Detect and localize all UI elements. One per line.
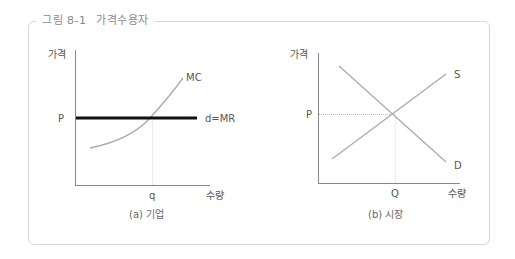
panel-a-mc-curve <box>90 78 183 148</box>
panel-a-caption: (a) 기업 <box>129 208 164 220</box>
panel-a-x-label: 수량 <box>206 190 224 201</box>
panel-a-p-label: P <box>58 113 64 124</box>
panel-b-caption: (b) 시장 <box>368 209 403 220</box>
panel-b-d-label: D <box>454 160 462 171</box>
diagram-canvas: 가격 MC d=MR P q 수량 (a) 기업 가격 S D P Q 수량 (… <box>0 0 515 259</box>
panel-a-q-label: q <box>149 190 155 201</box>
panel-b-p-label: P <box>306 109 312 120</box>
panel-a-mc-label: MC <box>186 72 202 83</box>
panel-b-s-label: S <box>454 69 460 80</box>
panel-a-firm: 가격 MC d=MR P q 수량 (a) 기업 <box>48 48 235 220</box>
panel-b-market: 가격 S D P Q 수량 (b) 시장 <box>290 48 466 220</box>
panel-a-d-label: d=MR <box>205 113 235 124</box>
panel-b-y-label: 가격 <box>290 48 308 60</box>
panel-a-y-label: 가격 <box>48 48 66 60</box>
panel-b-q-label: Q <box>391 188 399 199</box>
panel-b-x-label: 수량 <box>448 188 466 199</box>
